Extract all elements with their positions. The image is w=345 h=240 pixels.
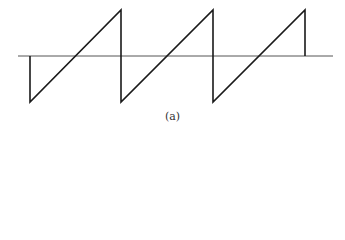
figure-caption: (a) bbox=[0, 110, 345, 123]
